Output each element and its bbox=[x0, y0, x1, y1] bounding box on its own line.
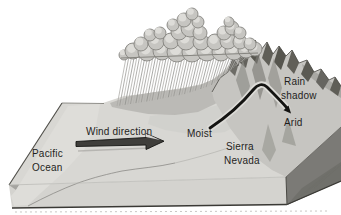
rain-shadow-label-line1: Rain bbox=[281, 75, 317, 89]
rain-shadow-label: Rain shadow bbox=[281, 75, 317, 103]
diagram-canvas bbox=[0, 0, 341, 215]
pacific-ocean-label-line1: Pacific bbox=[32, 147, 63, 161]
rain-shadow-label-line2: shadow bbox=[281, 89, 317, 103]
pacific-ocean-label: Pacific Ocean bbox=[32, 147, 63, 175]
rain-shadow-diagram: Wind direction Pacific Ocean Moist Sierr… bbox=[0, 0, 341, 215]
moist-label: Moist bbox=[187, 127, 212, 141]
arid-label: Arid bbox=[284, 116, 303, 130]
wind-direction-label: Wind direction bbox=[86, 125, 152, 139]
sierra-nevada-label: Sierra Nevada bbox=[224, 140, 260, 168]
sierra-nevada-label-line2: Nevada bbox=[224, 154, 260, 168]
sierra-nevada-label-line1: Sierra bbox=[224, 140, 260, 154]
pacific-ocean-label-line2: Ocean bbox=[32, 161, 63, 175]
